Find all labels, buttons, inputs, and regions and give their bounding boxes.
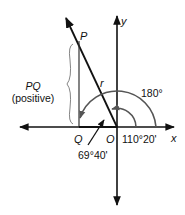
label-angle-180: 180°: [141, 87, 163, 99]
pq-brace-icon: [67, 44, 73, 124]
label-pq-positive: (positive): [12, 92, 55, 104]
label-y: y: [120, 15, 128, 27]
terminal-ray: [66, 18, 117, 127]
angle-diagram: P r y x Q O PQ (positive) 180° 110°20' 6…: [0, 0, 185, 215]
label-x: x: [170, 132, 177, 144]
label-q: Q: [74, 133, 83, 145]
label-angle-110-20: 110°20': [122, 133, 157, 145]
angle-69-40-pointer: [88, 120, 104, 145]
label-r: r: [100, 77, 105, 89]
label-o: O: [106, 133, 115, 145]
label-angle-69-40: 69°40': [78, 149, 108, 161]
label-p: P: [80, 30, 88, 42]
label-pq: PQ: [25, 80, 40, 92]
